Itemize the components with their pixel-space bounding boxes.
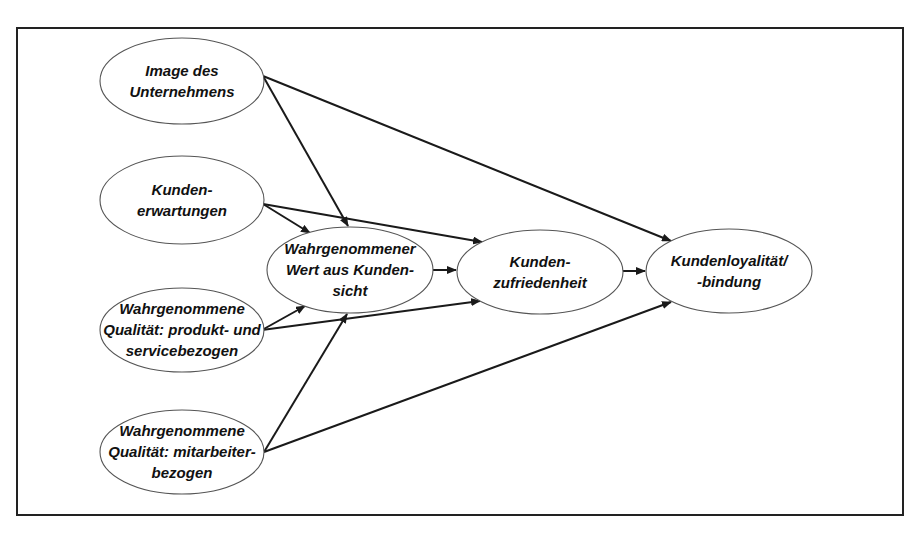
node-label-qualitaet_mitarbeiter-line-1: Qualität: mitarbeiter- [108, 443, 256, 460]
node-label-erwartungen-line-0: Kunden- [152, 181, 213, 198]
arrow-image-to-loyalitaet [263, 76, 671, 241]
node-label-qualitaet_mitarbeiter-line-2: bezogen [152, 464, 213, 481]
node-zufriedenheit: Kunden-zufriedenheit [457, 230, 623, 314]
node-loyalitaet: Kundenloyalität/-bindung [646, 229, 812, 313]
ellipse-erwartungen [100, 156, 264, 244]
node-label-wert-line-0: Wahrgenommener [284, 240, 417, 257]
node-wert: WahrgenommenerWert aus Kunden-sicht [267, 227, 433, 313]
node-erwartungen: Kunden-erwartungen [100, 156, 264, 244]
node-label-image-line-0: Image des [145, 62, 218, 79]
diagram-canvas: Image desUnternehmensKunden-erwartungenW… [0, 0, 915, 541]
node-label-qualitaet_produkt-line-0: Wahrgenommene [119, 300, 245, 317]
node-label-loyalitaet-line-1: -bindung [697, 273, 761, 290]
node-label-zufriedenheit-line-0: Kunden- [510, 253, 571, 270]
arrow-image-to-wert [263, 76, 348, 226]
node-qualitaet_mitarbeiter: WahrgenommeneQualität: mitarbeiter-bezog… [100, 410, 264, 494]
node-label-erwartungen-line-1: erwartungen [137, 202, 227, 219]
arrow-qualitaet_mitarbeiter-to-loyalitaet [264, 302, 671, 452]
node-label-qualitaet_produkt-line-2: servicebezogen [126, 342, 239, 359]
node-label-qualitaet_produkt-line-1: Qualität: produkt- und [103, 321, 261, 338]
node-label-wert-line-2: sicht [332, 282, 368, 299]
node-label-loyalitaet-line-0: Kundenloyalität/ [671, 252, 790, 269]
node-label-qualitaet_mitarbeiter-line-0: Wahrgenommene [119, 422, 245, 439]
node-qualitaet_produkt: WahrgenommeneQualität: produkt- undservi… [100, 288, 264, 372]
node-image: Image desUnternehmens [100, 38, 264, 124]
ellipse-zufriedenheit [457, 230, 623, 314]
arrow-qualitaet_mitarbeiter-to-wert [264, 314, 347, 452]
nodes-layer: Image desUnternehmensKunden-erwartungenW… [100, 38, 812, 494]
ellipse-image [100, 38, 264, 124]
node-label-zufriedenheit-line-1: zufriedenheit [492, 274, 587, 291]
ellipse-loyalitaet [646, 229, 812, 313]
node-label-image-line-1: Unternehmens [129, 83, 234, 100]
node-label-wert-line-1: Wert aus Kunden- [286, 261, 414, 278]
